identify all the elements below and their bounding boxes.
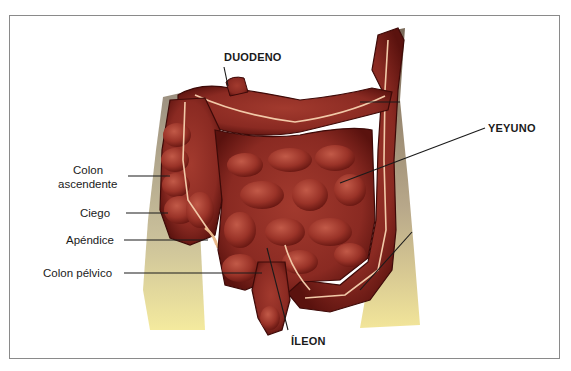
label-colon-ascendente-line2: ascendente	[58, 177, 117, 191]
label-colon-pelvico: Colon pélvico	[43, 266, 112, 280]
duodenum	[226, 77, 248, 96]
label-ileon: ÍLEON	[291, 334, 326, 348]
label-ciego: Ciego	[80, 206, 110, 220]
label-yeyuno: YEYUNO	[488, 121, 536, 135]
label-apendice: Apéndice	[66, 233, 114, 247]
label-duodeno: DUODENO	[224, 50, 282, 64]
ascending-colon	[160, 98, 222, 245]
label-colon-ascendente-line1: Colon	[73, 163, 103, 177]
small-intestine	[215, 128, 375, 300]
